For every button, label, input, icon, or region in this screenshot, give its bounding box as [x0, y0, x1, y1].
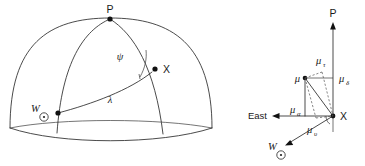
label-mu-delta: μ [338, 73, 344, 84]
sun-symbol-right [277, 151, 285, 159]
dashed-component-mu-tau [305, 72, 322, 78]
label-mu: μ [294, 73, 300, 84]
label-mu-alpha: μ [289, 104, 295, 115]
diagram-svg: P X W ψ λ P [0, 0, 365, 166]
figure-canvas: P X W ψ λ P [0, 0, 365, 166]
great-circle-arc-w-to-x [58, 72, 152, 113]
arrowhead-east [272, 113, 280, 119]
label-mu-delta-group: μ δ [338, 73, 350, 86]
label-pole-p: P [106, 3, 113, 15]
arrowhead-pole [330, 22, 336, 30]
dashed-component-tau-to-x [322, 72, 333, 116]
horizon-front-arc [10, 128, 212, 141]
horizon-back-arc [10, 121, 212, 129]
point-p-marker [107, 16, 112, 21]
label-mu-upsilon-group: μ υ [306, 124, 317, 137]
label-mu-tau-group: μ τ [315, 55, 326, 68]
label-star-x: X [163, 63, 170, 75]
angle-tick-psi [139, 74, 140, 79]
label-star-x-right: X [340, 110, 347, 122]
label-mu-tau: μ [315, 55, 321, 66]
label-pole-p-right: P [329, 7, 336, 19]
meridian-arc-east [110, 19, 163, 134]
left-hemisphere-group: P X W ψ λ [10, 3, 212, 141]
label-apex-w: W [31, 103, 41, 114]
dashed-component-mu-upsilon [305, 78, 316, 118]
label-mu-tau-subscript: τ [323, 61, 326, 68]
label-mu-delta-subscript: δ [346, 79, 350, 86]
angle-tick-x [326, 116, 330, 124]
right-vector-group: P East X W [248, 7, 350, 159]
dome-limb-arc [10, 18, 212, 128]
vector-mu [305, 78, 333, 116]
label-mu-upsilon: μ [306, 124, 312, 135]
point-x-marker [152, 66, 157, 71]
label-east: East [248, 110, 267, 121]
label-mu-upsilon-subscript: υ [314, 130, 317, 137]
label-apex-w-right: W [268, 141, 278, 152]
label-angle-psi: ψ [117, 51, 124, 62]
point-w-marker [55, 110, 60, 115]
sun-symbol-left [40, 113, 48, 121]
meridian-arc-west [57, 19, 110, 133]
label-mu-alpha-group: μ α [289, 104, 301, 117]
label-mu-alpha-subscript: α [297, 110, 301, 117]
label-arc-lambda: λ [107, 94, 113, 105]
